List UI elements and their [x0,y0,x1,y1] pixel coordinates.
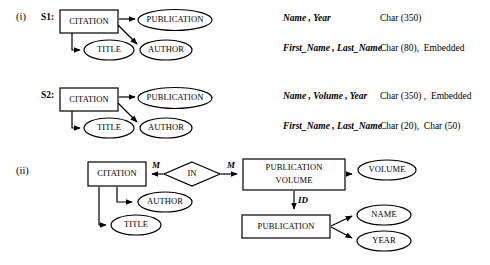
s1-diagram: CITATION PUBLICATION TITLE AUTHOR [60,10,212,61]
er-entity-publication-volume-label-line2: VOLUME [276,175,313,185]
figure-canvas: (i) S1: S2: (ii) Name , Year Char (350) … [0,0,490,265]
s1-entity-citation-label: CITATION [69,16,108,26]
er-diagram: CITATION IN PUBLICATION VOLUME PUBLICATI… [88,159,416,251]
s1-attr-author-label: AUTHOR [148,44,184,54]
er-cardinality-left: M [151,160,161,170]
s2-attr-author-label: AUTHOR [148,122,184,132]
er-entity-publication-volume-label-line1: PUBLICATION [266,162,323,172]
s1-attr-publication-label: PUBLICATION [147,14,204,24]
er-edge-citation-title [99,187,106,225]
s1-attr-title-label: TITLE [97,44,121,54]
s2-edge-citation-title [72,111,80,128]
er-entity-publication-label: PUBLICATION [258,221,315,231]
s2-entity-citation-label: CITATION [69,94,108,104]
er-edge-publication-year [331,227,352,238]
er-edge-publication-name [331,216,352,226]
diagram-svg: CITATION PUBLICATION TITLE AUTHOR CITATI… [0,0,490,265]
s2-attr-title-label: TITLE [97,122,121,132]
er-cardinality-right: M [226,160,236,170]
er-attr-volume-label: VOLUME [369,164,406,174]
er-edge-citation-author [117,187,132,202]
er-link-label-id: ID [297,195,309,205]
er-entity-citation-label: CITATION [97,168,136,178]
s2-diagram: CITATION PUBLICATION TITLE AUTHOR [60,88,212,139]
s2-attr-publication-label: PUBLICATION [147,92,204,102]
er-attr-name-label: NAME [371,209,396,219]
s1-edge-citation-title [72,33,80,50]
er-relationship-in-label: IN [187,168,196,178]
er-attr-title-label: TITLE [124,219,148,229]
er-attr-author-label: AUTHOR [147,196,183,206]
er-attr-year-label: YEAR [372,235,396,245]
